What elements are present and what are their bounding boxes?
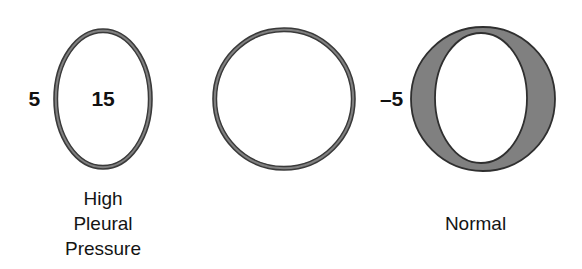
ventricle-shape-normal <box>195 0 385 269</box>
caption-high-pleural-pressure: High Pleural Pressure <box>18 186 188 261</box>
ventricle-chamber <box>435 33 527 163</box>
ventricle-chamber <box>217 32 352 167</box>
caption-line: Pressure <box>18 236 188 261</box>
panel-normal: –5 15 Normal <box>195 0 385 269</box>
ventricle-shape-low-myocardial-compliance <box>385 0 582 269</box>
caption-line: High <box>18 186 188 211</box>
panel-high-pleural-pressure: 5 15 High Pleural Pressure <box>0 0 195 269</box>
caption-line: Pleural <box>18 211 188 236</box>
inner-pressure-label-high-pleural-pressure: 15 <box>72 88 134 109</box>
cardiac-compliance-figure: 5 15 High Pleural Pressure –5 15 Normal <box>0 0 582 269</box>
outer-pressure-label-high-pleural-pressure: 5 <box>14 88 40 109</box>
panel-low-myocardial-compliance: –5 15 Low Myocardial Compliance <box>385 0 582 269</box>
